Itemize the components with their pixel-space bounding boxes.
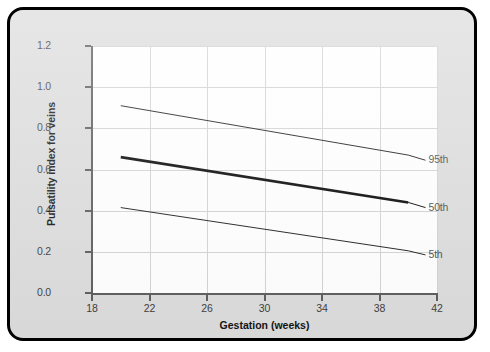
series-leader-95th <box>408 155 425 160</box>
series-line-50th <box>121 157 409 202</box>
figure-frame: 0.00.20.40.60.81.01.218222630343842 95th… <box>7 7 477 341</box>
series-line-95th <box>121 106 409 155</box>
series-label-95th: 95th <box>429 153 449 165</box>
chart-area: 0.00.20.40.60.81.01.218222630343842 95th… <box>10 10 477 341</box>
series-leader-5th <box>408 251 425 255</box>
y-axis-title: Pulsatility index for veins <box>45 64 57 264</box>
series-leader-50th <box>408 202 425 207</box>
x-axis-title: Gestation (weeks) <box>92 319 437 331</box>
series-plot <box>10 10 477 341</box>
series-line-5th <box>121 208 409 251</box>
series-label-5th: 5th <box>429 248 443 260</box>
series-label-50th: 50th <box>429 201 449 213</box>
